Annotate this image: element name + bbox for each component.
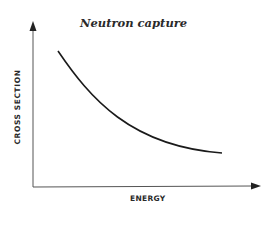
x-axis-label: ENERGY xyxy=(130,194,166,203)
capture-curve xyxy=(58,51,222,153)
x-axis xyxy=(33,186,252,187)
chart-title: Neutron capture xyxy=(80,16,187,30)
x-axis-arrow-icon xyxy=(251,183,261,190)
y-axis-label: CROSS SECTION xyxy=(13,69,22,144)
y-axis-arrow-icon xyxy=(30,21,37,31)
